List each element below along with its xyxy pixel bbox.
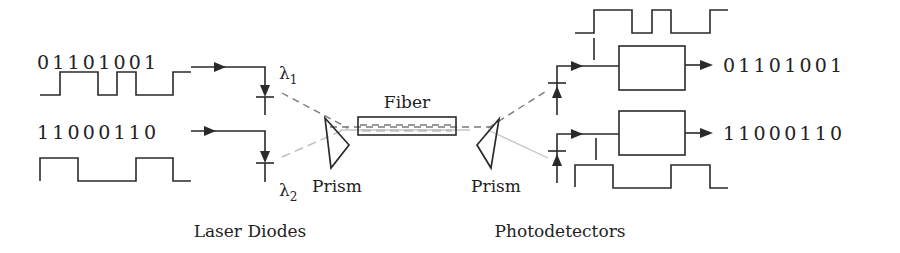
- arrow-right-icon: [204, 126, 216, 136]
- prism-right: Prism: [471, 119, 521, 196]
- decision-box-1: [619, 46, 685, 90]
- lambda-2-label: λ2: [279, 180, 297, 204]
- input-wire-2: [191, 131, 265, 158]
- arrow-up-icon: [552, 154, 562, 166]
- photodetector-2: [548, 151, 566, 183]
- input-wire-1: [191, 67, 265, 92]
- transmitter-channel-1: 01101001 λ1: [37, 51, 297, 115]
- arrow-right-icon: [700, 60, 713, 70]
- prism-left-label: Prism: [312, 176, 362, 196]
- arrow-up-icon: [552, 86, 562, 98]
- detector-wire-2: [557, 134, 619, 151]
- receiver-channel-1: 01101001: [548, 10, 845, 115]
- laser-diode-2: [256, 163, 274, 182]
- input-waveform-2: [40, 158, 191, 181]
- laser-diodes-label: Laser Diodes: [194, 221, 307, 241]
- arrow-right-icon: [214, 62, 226, 72]
- receiver-channel-2: 11000110: [548, 111, 845, 188]
- prism-right-label: Prism: [471, 176, 521, 196]
- fiber-label: Fiber: [384, 92, 431, 112]
- input-waveform-1: [40, 72, 191, 95]
- photodetectors-label: Photodetectors: [495, 221, 626, 241]
- lambda-1-label: λ1: [279, 63, 297, 87]
- arrow-down-icon: [260, 85, 270, 97]
- input-bits-2: 11000110: [37, 121, 159, 143]
- output-bits-1: 01101001: [723, 54, 845, 76]
- input-bits-1: 01101001: [37, 51, 159, 73]
- output-bits-2: 11000110: [723, 122, 845, 144]
- arrow-right-icon: [571, 129, 583, 139]
- output-waveform-2: [575, 165, 728, 188]
- transmitter-channel-2: 11000110 λ2: [37, 121, 297, 204]
- wdm-diagram: 01101001 λ1 11000110 λ2: [0, 0, 900, 253]
- laser-diode-1: [256, 97, 274, 115]
- detector-wire-1: [557, 66, 619, 83]
- fiber: Fiber: [358, 92, 456, 135]
- arrow-down-icon: [260, 151, 270, 163]
- arrow-right-icon: [571, 61, 583, 71]
- photodetector-1: [548, 83, 566, 115]
- output-waveform-1: [575, 10, 728, 33]
- decision-box-2: [619, 111, 685, 155]
- arrow-right-icon: [700, 128, 713, 138]
